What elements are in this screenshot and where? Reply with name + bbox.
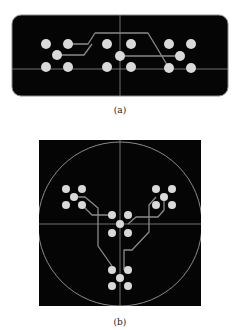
dot bbox=[62, 201, 70, 209]
dot bbox=[108, 229, 116, 237]
dot bbox=[63, 39, 73, 49]
dot bbox=[152, 185, 160, 193]
dot bbox=[102, 39, 112, 49]
dot bbox=[108, 282, 116, 290]
figure: (a) (b) bbox=[0, 0, 235, 330]
dot bbox=[124, 282, 132, 290]
dot bbox=[41, 62, 51, 72]
dot bbox=[78, 201, 86, 209]
dot bbox=[126, 62, 136, 72]
dot bbox=[70, 193, 78, 201]
dot bbox=[186, 39, 196, 49]
dot bbox=[124, 211, 132, 219]
dot bbox=[116, 274, 124, 282]
dot bbox=[124, 229, 132, 237]
dot bbox=[116, 220, 124, 228]
dot bbox=[52, 50, 62, 60]
caption-a: (a) bbox=[114, 105, 126, 115]
dot bbox=[62, 185, 70, 193]
dot bbox=[108, 211, 116, 219]
dot bbox=[115, 51, 125, 61]
dot bbox=[175, 51, 185, 61]
dot bbox=[108, 266, 116, 274]
panel-b bbox=[38, 140, 202, 306]
caption-b: (b) bbox=[114, 317, 127, 327]
dot bbox=[186, 63, 196, 73]
dot bbox=[78, 185, 86, 193]
dot bbox=[168, 201, 176, 209]
dot bbox=[164, 39, 174, 49]
dot bbox=[168, 185, 176, 193]
dot bbox=[126, 39, 136, 49]
dot bbox=[164, 63, 174, 73]
dot bbox=[41, 39, 51, 49]
dot bbox=[102, 62, 112, 72]
dot bbox=[63, 62, 73, 72]
dot bbox=[160, 193, 168, 201]
panel-a bbox=[12, 15, 228, 96]
dot bbox=[124, 266, 132, 274]
dot bbox=[152, 201, 160, 209]
